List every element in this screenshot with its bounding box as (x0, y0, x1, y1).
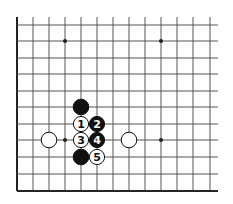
white-stone-3: 3 (73, 132, 88, 147)
white-stone-5: 5 (89, 149, 104, 164)
black-stone-4: 4 (89, 132, 104, 147)
stone-circle (121, 132, 137, 148)
star-point (63, 138, 67, 142)
black-stone (73, 99, 89, 115)
stone-circle (73, 99, 89, 115)
stone-circle (73, 149, 89, 165)
move-number: 2 (93, 118, 101, 131)
stones: 12345 (41, 99, 137, 165)
star-point (159, 138, 163, 142)
star-point (63, 39, 67, 43)
star-point (159, 39, 163, 43)
stone-circle (41, 132, 57, 148)
white-stone (121, 132, 137, 148)
white-stone-1: 1 (73, 116, 88, 131)
black-stone (73, 149, 89, 165)
black-stone-2: 2 (89, 116, 104, 131)
move-number: 1 (77, 118, 85, 131)
go-board: 12345 (0, 0, 233, 204)
move-number: 5 (93, 151, 101, 164)
white-stone (41, 132, 57, 148)
move-number: 4 (93, 134, 101, 147)
grid-lines (17, 17, 218, 191)
move-number: 3 (77, 134, 85, 147)
